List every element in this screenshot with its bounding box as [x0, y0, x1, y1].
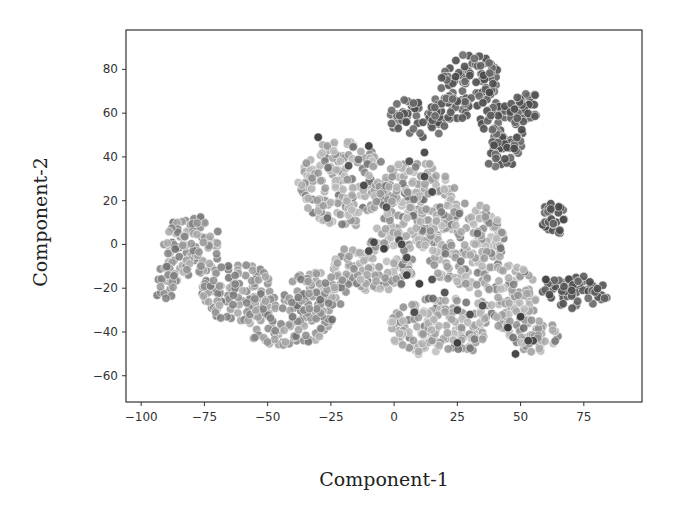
x-tick-label: 75: [576, 410, 591, 424]
data-point: [523, 289, 532, 298]
data-point: [395, 329, 404, 338]
data-point: [440, 122, 449, 131]
x-tick-label: 25: [450, 410, 465, 424]
data-point: [251, 306, 260, 315]
x-axis-label: Component-1: [319, 468, 448, 490]
data-point: [197, 262, 206, 271]
data-point: [380, 245, 389, 254]
data-point: [251, 295, 260, 304]
data-point: [239, 286, 248, 295]
y-tick-label: 0: [110, 237, 118, 251]
data-point: [304, 194, 313, 203]
data-point: [415, 280, 424, 289]
data-point: [455, 209, 464, 218]
y-tick-label: 20: [103, 194, 118, 208]
data-point: [382, 203, 391, 212]
data-point: [466, 71, 475, 80]
data-point: [497, 228, 506, 237]
data-point: [416, 217, 425, 226]
data-point: [428, 275, 437, 284]
x-tick-label: 50: [513, 410, 528, 424]
data-point: [474, 289, 483, 298]
data-point: [375, 263, 384, 272]
data-point: [453, 339, 462, 348]
data-point: [480, 125, 489, 134]
data-point: [535, 317, 544, 326]
data-point: [466, 251, 475, 260]
data-point: [165, 227, 174, 236]
data-point: [317, 324, 326, 333]
data-point: [488, 125, 497, 134]
data-point: [486, 69, 495, 78]
data-point: [418, 339, 427, 348]
data-point: [261, 297, 270, 306]
data-point: [388, 318, 397, 327]
data-point: [514, 291, 523, 300]
data-point: [494, 293, 503, 302]
data-point: [559, 300, 568, 309]
data-point: [410, 308, 419, 317]
data-point: [462, 279, 471, 288]
data-point: [548, 326, 557, 335]
data-point: [336, 210, 345, 219]
data-point: [490, 141, 499, 150]
data-point: [560, 282, 569, 291]
data-point: [519, 265, 528, 274]
data-point: [315, 332, 324, 341]
data-point: [313, 196, 322, 205]
data-point: [387, 119, 396, 128]
data-point: [318, 149, 327, 158]
data-point: [487, 111, 496, 120]
data-point: [339, 185, 348, 194]
data-point: [305, 305, 314, 314]
data-point: [496, 252, 505, 261]
data-point: [308, 174, 317, 183]
y-tick-label: −60: [93, 369, 118, 383]
data-point: [350, 265, 359, 274]
data-point: [386, 165, 395, 174]
data-point: [357, 147, 366, 156]
data-point: [170, 272, 179, 281]
data-point: [242, 261, 251, 270]
data-point: [505, 299, 513, 308]
data-point: [231, 271, 240, 280]
data-point: [338, 276, 347, 285]
data-point: [520, 305, 529, 314]
data-point: [179, 241, 188, 250]
data-point: [394, 160, 403, 169]
data-point: [430, 261, 439, 270]
data-point: [429, 294, 438, 303]
data-point: [409, 99, 418, 108]
data-point: [278, 304, 287, 313]
data-point: [461, 199, 470, 208]
data-point: [457, 324, 466, 333]
data-point: [495, 277, 504, 286]
data-point: [497, 285, 506, 294]
data-point: [280, 326, 289, 335]
data-point: [332, 166, 341, 175]
data-point: [460, 241, 469, 250]
data-point: [551, 337, 560, 346]
data-point: [324, 299, 333, 308]
y-axis-label: Component-2: [29, 157, 51, 286]
data-point: [447, 241, 456, 250]
data-point: [524, 336, 533, 345]
data-point: [403, 188, 412, 197]
data-point: [435, 341, 444, 350]
data-point: [446, 108, 455, 117]
data-point: [519, 324, 528, 333]
data-point: [421, 241, 430, 250]
data-point: [586, 278, 595, 287]
data-point: [600, 294, 609, 303]
data-point: [242, 299, 251, 308]
data-point: [213, 239, 222, 248]
data-point: [304, 277, 313, 286]
data-point: [399, 303, 408, 312]
data-point: [229, 301, 238, 310]
data-point: [209, 276, 218, 285]
data-point: [448, 315, 457, 324]
data-point: [330, 138, 339, 147]
data-point: [422, 205, 431, 214]
data-point: [450, 184, 459, 193]
data-point: [381, 274, 390, 283]
